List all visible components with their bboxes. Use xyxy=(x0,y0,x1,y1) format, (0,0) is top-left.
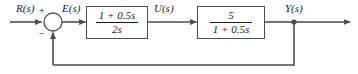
label-error-es: E(s) xyxy=(62,3,80,14)
summing-junction-plus-sign: + xyxy=(39,6,45,16)
controller-denominator: 2s xyxy=(109,23,125,35)
plant-denominator: 1 + 0.5s xyxy=(210,23,252,35)
controller-transfer-function: 1 + 0.5s 2s xyxy=(96,10,138,35)
summing-junction-circle xyxy=(44,13,62,31)
diagram-canvas xyxy=(0,0,358,74)
block-diagram: R(s) + − E(s) 1 + 0.5s 2s U(s) 5 1 + 0.5… xyxy=(0,0,358,74)
plant-block: 5 1 + 0.5s xyxy=(197,6,265,39)
label-output-ys: Y(s) xyxy=(285,3,303,14)
label-input-rs: R(s) xyxy=(16,3,34,14)
controller-numerator: 1 + 0.5s xyxy=(96,10,138,22)
summing-junction-minus-sign: − xyxy=(39,29,45,39)
plant-transfer-function: 5 1 + 0.5s xyxy=(210,10,252,35)
plant-numerator: 5 xyxy=(225,10,237,22)
controller-block: 1 + 0.5s 2s xyxy=(86,6,148,39)
label-control-us: U(s) xyxy=(154,3,174,14)
